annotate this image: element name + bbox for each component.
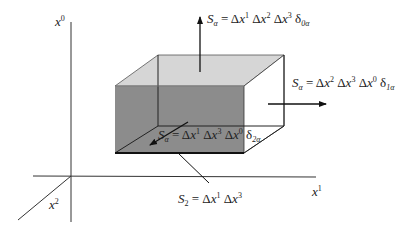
x0-axis-label: x0 <box>55 15 65 28</box>
bottom-normal-line <box>178 153 209 183</box>
x1-axis <box>33 176 316 177</box>
right-surface-equation: Sα = Δx2 Δx3 Δx0 δ1α <box>292 76 394 92</box>
x1-axis-label: x1 <box>312 185 322 198</box>
x2-axis <box>18 176 71 220</box>
x2-axis-label: x2 <box>49 198 59 211</box>
diagram-canvas: x0 x1 x2 Sα = Δx1 Δx2 Δx3 δ0α Sα = Δx2 Δ… <box>0 0 415 232</box>
front-surface-equation: Sα = Δx1 Δx3 Δx0 δ2α <box>158 128 260 144</box>
bottom-surface-equation: S2 = Δx1 Δx3 <box>178 192 242 208</box>
top-surface-equation: Sα = Δx1 Δx2 Δx3 δ0α <box>207 12 309 28</box>
